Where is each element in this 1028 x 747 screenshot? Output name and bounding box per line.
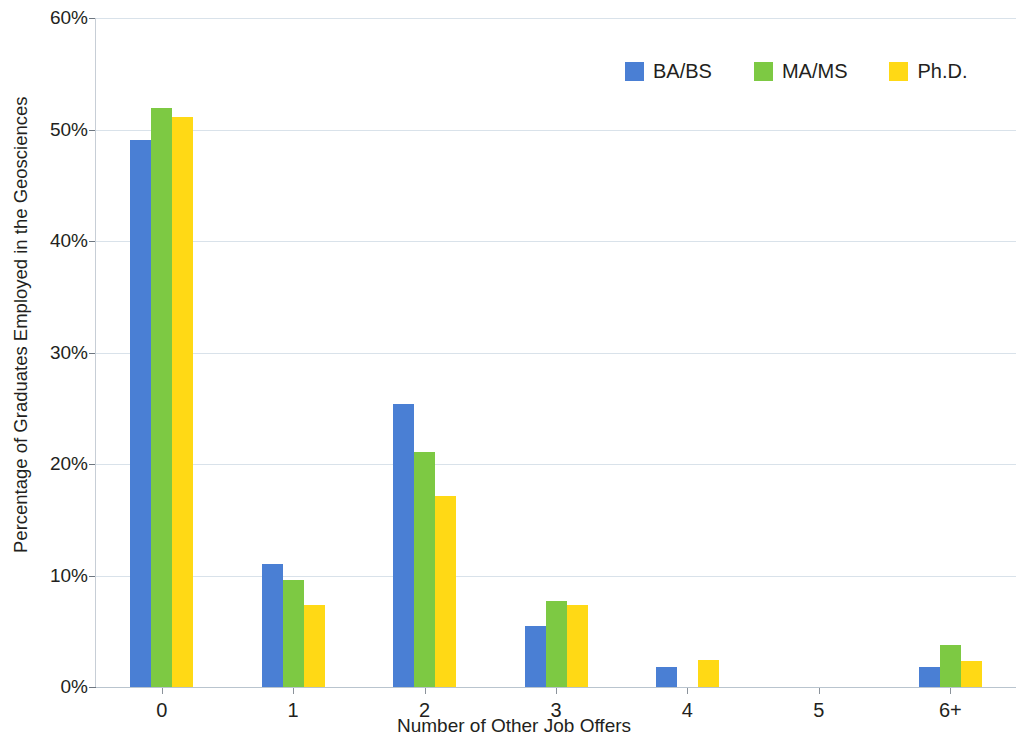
x-tick-mark <box>425 687 426 694</box>
legend-label: BA/BS <box>653 60 712 83</box>
gridline-20pct <box>96 464 1016 465</box>
y-tick-label: 20% <box>50 453 88 475</box>
gridline-50pct <box>96 130 1016 131</box>
legend-label: Ph.D. <box>917 60 967 83</box>
legend-item: BA/BS <box>625 60 712 83</box>
plot-area <box>96 18 1016 687</box>
y-tick-label: 50% <box>50 119 88 141</box>
bar-mams-6plus <box>940 645 961 687</box>
legend-swatch-babs <box>625 62 644 81</box>
y-tick-label: 0% <box>61 676 88 698</box>
bar-phd-1 <box>304 605 325 688</box>
x-tick-mark <box>950 687 951 694</box>
legend-label: MA/MS <box>782 60 848 83</box>
bar-phd-0 <box>172 117 193 687</box>
x-tick-mark <box>162 687 163 694</box>
y-axis-title: Percentage of Graduates Employed in the … <box>10 133 32 553</box>
legend-item: Ph.D. <box>889 60 967 83</box>
gridline-40pct <box>96 241 1016 242</box>
bar-phd-6plus <box>961 661 982 687</box>
y-tick-label: 60% <box>50 7 88 29</box>
y-tick-label: 40% <box>50 230 88 252</box>
x-tick-mark <box>293 687 294 694</box>
bar-babs-3 <box>525 626 546 687</box>
legend-swatch-mams <box>754 62 773 81</box>
legend: BA/BSMA/MSPh.D. <box>625 58 968 84</box>
bar-babs-1 <box>262 564 283 687</box>
chart-figure: 0%10%20%30%40%50%60% Percentage of Gradu… <box>0 0 1028 747</box>
bar-mams-2 <box>414 452 435 687</box>
legend-item: MA/MS <box>754 60 848 83</box>
x-axis-spine <box>96 687 1016 688</box>
bar-phd-2 <box>435 496 456 687</box>
bar-babs-0 <box>130 140 151 687</box>
x-tick-mark <box>819 687 820 694</box>
x-tick-mark <box>687 687 688 694</box>
y-tick-label: 10% <box>50 565 88 587</box>
gridline-60pct <box>96 18 1016 19</box>
bar-phd-3 <box>567 605 588 688</box>
y-tick-label: 30% <box>50 342 88 364</box>
bar-babs-2 <box>393 404 414 687</box>
gridline-30pct <box>96 353 1016 354</box>
gridline-10pct <box>96 576 1016 577</box>
x-axis-title: Number of Other Job Offers <box>0 715 1028 737</box>
bar-mams-0 <box>151 108 172 687</box>
bar-mams-1 <box>283 580 304 687</box>
bar-babs-6plus <box>919 667 940 687</box>
y-tick-mark <box>89 687 96 688</box>
bar-phd-4 <box>698 660 719 687</box>
bar-mams-3 <box>546 601 567 687</box>
bar-babs-4 <box>656 667 677 687</box>
x-tick-mark <box>556 687 557 694</box>
legend-swatch-phd <box>889 62 908 81</box>
